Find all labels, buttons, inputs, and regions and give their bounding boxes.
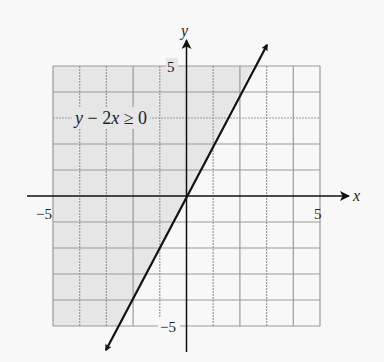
x-max-label: 5 (314, 206, 322, 222)
y-axis-label: y (179, 22, 189, 40)
inequality-rest: ≥ 0 (119, 108, 147, 128)
inequality-graph: x y −5 5 5 −5 (0, 0, 384, 362)
inequality-y: y (75, 108, 83, 128)
y-max-label: 5 (167, 59, 175, 75)
inequality-minus: − 2 (83, 108, 111, 128)
x-min-label: −5 (36, 206, 52, 222)
inequality-label: y − 2x ≥ 0 (72, 107, 150, 129)
inequality-x: x (111, 108, 119, 128)
x-axis-label: x (352, 187, 360, 204)
y-min-label: −5 (160, 319, 176, 335)
